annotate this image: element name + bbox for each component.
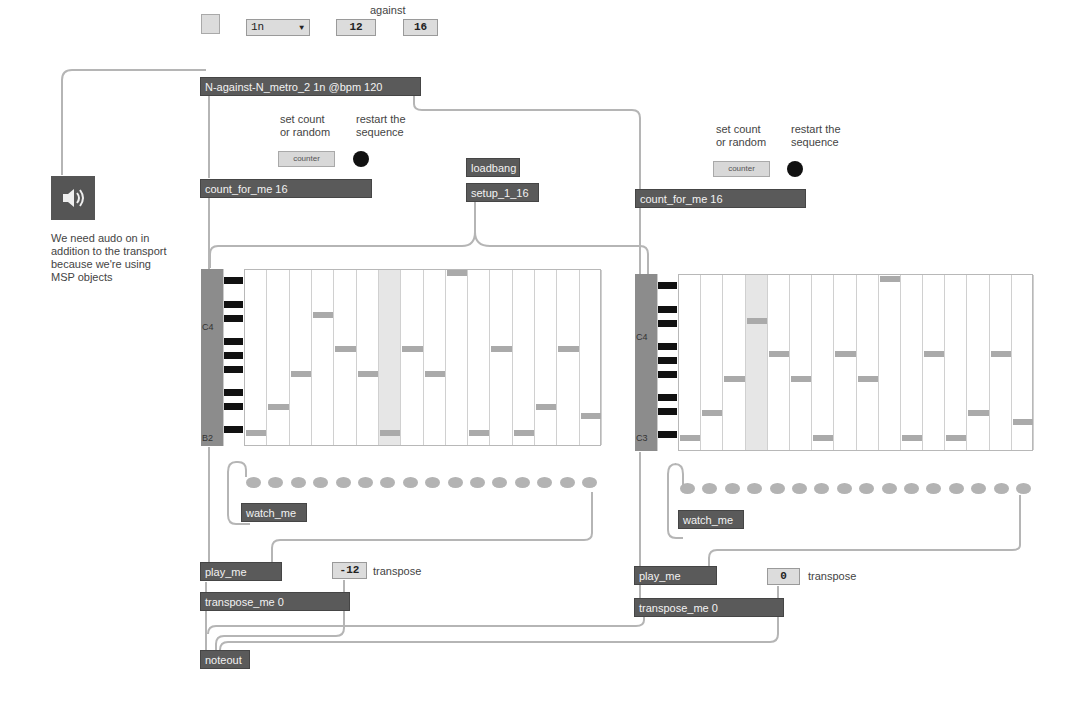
note-bar[interactable] [924,351,944,357]
grid-column[interactable] [923,275,945,450]
note-bar[interactable] [747,318,767,324]
note-bar[interactable] [536,404,556,410]
restart-bang-1[interactable] [353,151,369,167]
restart-bang-2[interactable] [787,161,803,177]
grid-column[interactable] [379,270,401,445]
note-bar[interactable] [968,410,988,416]
note-bar[interactable] [402,346,422,352]
black-key[interactable] [658,371,677,378]
black-key[interactable] [224,426,243,433]
grid-column[interactable] [834,275,856,450]
piano-keyboard-1[interactable] [223,269,244,446]
grid-column[interactable] [468,270,490,445]
note-bar[interactable] [246,430,266,436]
note-bar[interactable] [581,413,601,419]
grid-column[interactable] [490,270,512,445]
grid-column[interactable] [746,275,768,450]
note-bar[interactable] [724,376,744,382]
grid-column[interactable] [723,275,745,450]
note-bar[interactable] [813,435,833,441]
count-a-number[interactable]: 12 [336,19,376,36]
grid-column[interactable] [967,275,989,450]
note-bar[interactable] [680,435,700,441]
counter-button-1[interactable]: counter [278,151,335,167]
audio-toggle[interactable] [51,176,95,220]
note-bar[interactable] [514,430,534,436]
step-grid-1[interactable] [244,269,601,446]
note-bar[interactable] [491,346,511,352]
play-object-2[interactable]: play_me [634,566,717,585]
grid-column[interactable] [535,270,557,445]
transport-toggle[interactable] [201,14,220,34]
grid-column[interactable] [879,275,901,450]
grid-column[interactable] [513,270,535,445]
setup-object[interactable]: setup_1_16 [466,183,539,202]
grid-column[interactable] [446,270,468,445]
black-key[interactable] [224,338,243,345]
count-object-2[interactable]: count_for_me 16 [635,189,806,208]
grid-column[interactable] [334,270,356,445]
step-grid-2[interactable] [678,274,1033,451]
play-object-1[interactable]: play_me [200,562,282,581]
note-bar[interactable] [469,430,489,436]
pitch-range-bar-2[interactable] [635,274,657,451]
black-key[interactable] [658,431,677,438]
note-bar[interactable] [1013,419,1033,425]
black-key[interactable] [658,408,677,415]
black-key[interactable] [224,301,243,308]
black-key[interactable] [658,394,677,401]
grid-column[interactable] [424,270,446,445]
note-bar[interactable] [769,351,789,357]
transpose-object-1[interactable]: transpose_me 0 [200,592,350,611]
count-b-number[interactable]: 16 [403,19,438,36]
transpose-object-2[interactable]: transpose_me 0 [634,598,784,617]
note-value-menu[interactable]: 1n ▼ [246,19,310,36]
loadbang-object[interactable]: loadbang [466,158,520,177]
grid-column[interactable] [290,270,312,445]
note-bar[interactable] [291,371,311,377]
note-bar[interactable] [835,351,855,357]
pitch-range-bar-1[interactable] [201,269,223,446]
transpose-number-1[interactable]: -12 [332,562,367,579]
watch-object-2[interactable]: watch_me [678,510,744,529]
noteout-object[interactable]: noteout [200,650,250,669]
note-bar[interactable] [313,312,333,318]
grid-column[interactable] [990,275,1012,450]
black-key[interactable] [658,343,677,350]
black-key[interactable] [658,320,677,327]
grid-column[interactable] [857,275,879,450]
grid-column[interactable] [768,275,790,450]
grid-column[interactable] [245,270,267,445]
grid-column[interactable] [812,275,834,450]
black-key[interactable] [658,282,677,289]
black-key[interactable] [224,277,243,284]
black-key[interactable] [224,315,243,322]
black-key[interactable] [224,366,243,373]
grid-column[interactable] [790,275,812,450]
note-bar[interactable] [902,435,922,441]
black-key[interactable] [224,403,243,410]
grid-column[interactable] [701,275,723,450]
grid-column[interactable] [557,270,579,445]
watch-object-1[interactable]: watch_me [241,503,307,522]
note-bar[interactable] [425,371,445,377]
note-bar[interactable] [702,410,722,416]
grid-column[interactable] [267,270,289,445]
grid-column[interactable] [401,270,423,445]
transpose-number-2[interactable]: 0 [767,568,800,585]
grid-column[interactable] [901,275,923,450]
grid-column[interactable] [945,275,967,450]
grid-column[interactable] [357,270,379,445]
metro-object[interactable]: N-against-N_metro_2 1n @bpm 120 [200,77,421,96]
note-bar[interactable] [558,346,578,352]
count-object-1[interactable]: count_for_me 16 [200,179,372,198]
note-bar[interactable] [880,276,900,282]
note-bar[interactable] [991,351,1011,357]
counter-button-2[interactable]: counter [713,161,770,177]
grid-column[interactable] [679,275,701,450]
note-bar[interactable] [358,371,378,377]
black-key[interactable] [224,389,243,396]
grid-column[interactable] [312,270,334,445]
note-bar[interactable] [946,435,966,441]
note-bar[interactable] [447,270,467,276]
